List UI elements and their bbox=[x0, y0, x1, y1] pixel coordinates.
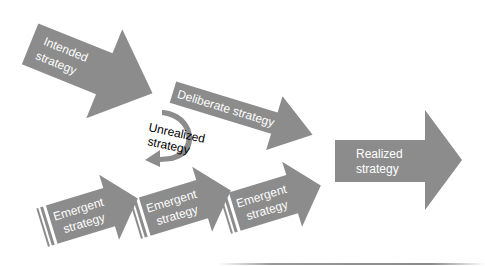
unrealized-strategy-curved-arrow: Unrealized strategy bbox=[145, 110, 206, 167]
realized-strategy-arrow: Realized strategy bbox=[335, 110, 462, 210]
emergent-strategy-arrow-1: Emergent strategy bbox=[32, 166, 148, 260]
intended-strategy-arrow: Intended strategy bbox=[12, 0, 170, 138]
realized-label-line1: Realized bbox=[356, 147, 403, 161]
emergent-strategy-arrow-3: Emergent strategy bbox=[215, 153, 331, 247]
realized-label-line2: strategy bbox=[356, 162, 399, 176]
strategy-diagram: Intended strategy Deliberate strategy Un… bbox=[0, 0, 485, 266]
bottom-divider bbox=[218, 263, 485, 265]
